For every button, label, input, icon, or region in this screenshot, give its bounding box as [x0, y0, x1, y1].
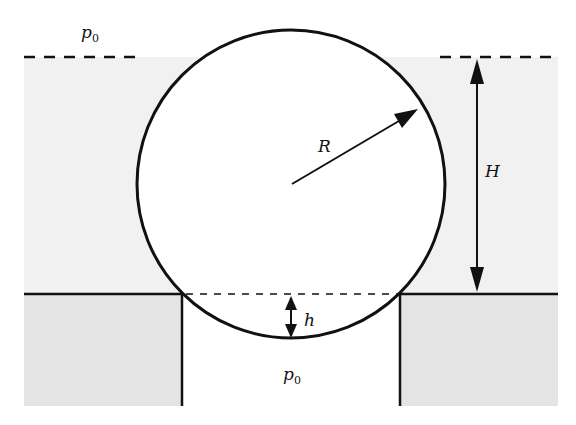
- right-wall: [400, 294, 558, 406]
- depth-label: H: [485, 163, 500, 180]
- pressure-bottom-label: p0: [283, 366, 301, 383]
- sphere: [137, 30, 445, 338]
- protrusion-label: h: [304, 312, 315, 329]
- diagram-canvas: p0 p0 R H h: [0, 0, 576, 425]
- left-wall: [24, 294, 182, 406]
- diagram-svg: [0, 0, 576, 425]
- pressure-top-label: p0: [81, 24, 99, 41]
- radius-label: R: [318, 138, 331, 155]
